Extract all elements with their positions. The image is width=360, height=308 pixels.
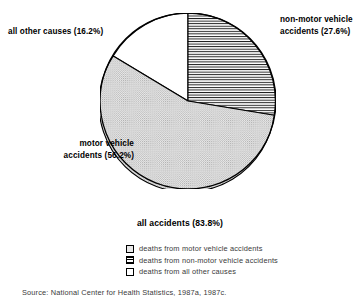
pie-label-non-motor-vehicle: non-motor vehicle accidents (27.6%)	[280, 14, 360, 37]
pie-label-motor-vehicle-line1: motor vehicle	[79, 139, 134, 148]
chart-legend: deaths from motor vehicle accidents deat…	[126, 243, 278, 278]
legend-swatch-blank-icon	[126, 268, 134, 276]
legend-item-motor-vehicle: deaths from motor vehicle accidents	[126, 243, 278, 255]
pie-label-all-other-causes-text: all other causes (16.2%)	[8, 27, 103, 36]
chart-caption: all accidents (83.8%)	[0, 218, 360, 228]
pie-svg	[100, 13, 276, 189]
pie-label-non-motor-vehicle-line1: non-motor vehicle	[280, 15, 353, 24]
legend-label-all-other-causes: deaths from all other causes	[139, 267, 236, 276]
legend-item-non-motor-vehicle: deaths from non-motor vehicle accidents	[126, 255, 278, 267]
legend-swatch-horizontal-lines-icon	[126, 256, 134, 264]
pie-label-non-motor-vehicle-line2: accidents (27.6%)	[280, 27, 350, 36]
legend-item-all-other-causes: deaths from all other causes	[126, 266, 278, 278]
legend-swatch-stipple-icon	[126, 245, 134, 253]
legend-label-motor-vehicle: deaths from motor vehicle accidents	[139, 244, 263, 253]
pie-chart-figure: all other causes (16.2%) non-motor vehic…	[0, 0, 360, 308]
pie-chart-graphic	[100, 13, 276, 189]
pie-label-all-other-causes: all other causes (16.2%)	[8, 26, 148, 38]
pie-label-motor-vehicle-line2: accidents (56.2%)	[64, 151, 134, 160]
source-note: Source: National Center for Health Stati…	[22, 288, 227, 297]
pie-slice-non-motor-vehicle	[188, 13, 275, 115]
pie-label-motor-vehicle: motor vehicle accidents (56.2%)	[6, 138, 134, 161]
legend-label-non-motor-vehicle: deaths from non-motor vehicle accidents	[139, 256, 278, 265]
